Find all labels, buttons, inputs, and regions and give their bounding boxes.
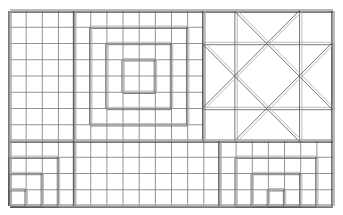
quilt-diagram bbox=[0, 0, 343, 215]
